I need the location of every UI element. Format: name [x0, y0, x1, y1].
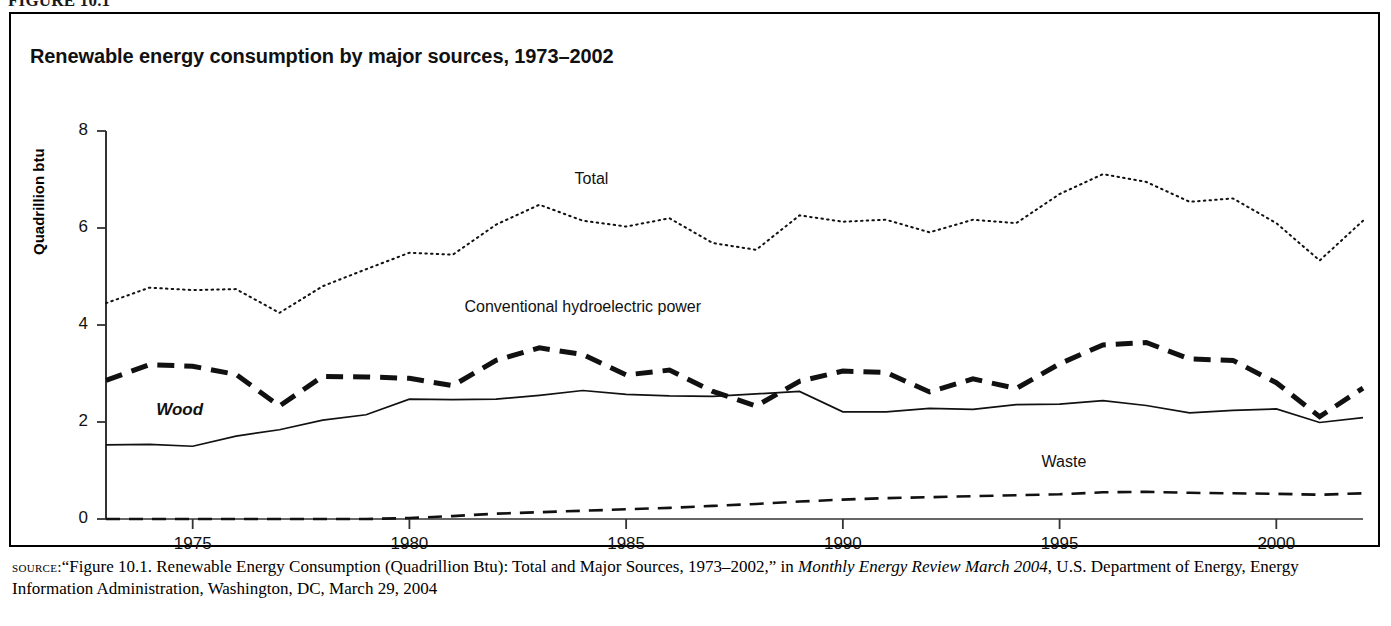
x-tick-marks [193, 519, 1277, 529]
x-tick-label: 1975 [158, 534, 228, 554]
source-note: source:“Figure 10.1. Renewable Energy Co… [12, 556, 1382, 601]
series-label-waste: Waste [1042, 453, 1087, 471]
series-line-wood [106, 390, 1363, 446]
y-tick-label: 0 [58, 508, 88, 528]
series-paths [106, 174, 1363, 519]
x-tick-label: 1980 [374, 534, 444, 554]
series-label-hydro: Conventional hydroelectric power [464, 298, 701, 316]
x-tick-label: 1990 [808, 534, 878, 554]
series-line-conventional [106, 342, 1363, 416]
y-axis-title: Quadrillion btu [30, 148, 47, 255]
series-label-wood: Wood [156, 400, 203, 420]
series-label-total: Total [575, 170, 609, 188]
chart-svg [0, 0, 1391, 560]
source-kicker: source: [12, 558, 62, 575]
series-line-waste [106, 492, 1363, 519]
source-text-a: “Figure 10.1. Renewable Energy Consumpti… [62, 557, 798, 576]
x-tick-label: 1995 [1025, 534, 1095, 554]
y-tick-label: 8 [58, 120, 88, 140]
x-tick-label: 1985 [591, 534, 661, 554]
x-tick-label: 2000 [1241, 534, 1311, 554]
chart-plot-area: Quadrillion btu 02468 197519801985199019… [0, 0, 1391, 560]
y-tick-marks [97, 131, 106, 519]
y-tick-label: 4 [58, 314, 88, 334]
source-text-b: , [1048, 557, 1052, 576]
series-line-total [106, 174, 1363, 313]
source-publication: Monthly Energy Review March 2004 [798, 557, 1048, 576]
y-tick-label: 2 [58, 411, 88, 431]
y-tick-label: 6 [58, 217, 88, 237]
